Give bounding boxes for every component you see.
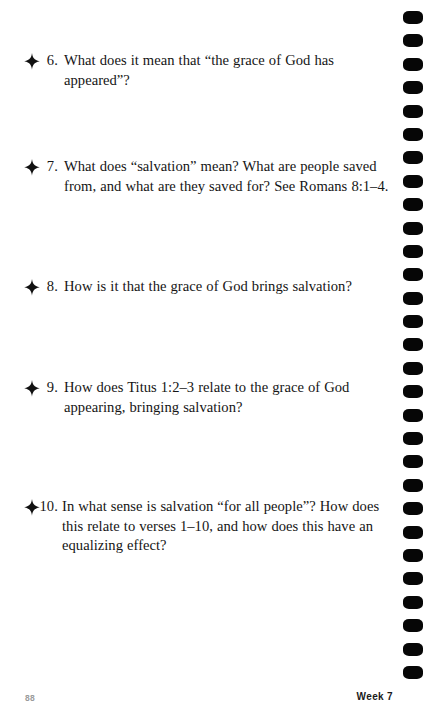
- section-label: Week 7: [357, 691, 393, 702]
- question-item: 7.What does “salvation” mean? What are p…: [24, 157, 394, 196]
- page-number: 88: [25, 693, 35, 703]
- four-pointed-star-icon: [24, 53, 40, 70]
- page-footer: 88 Week 7: [0, 681, 394, 721]
- binding-hole: [403, 385, 423, 398]
- binding-hole: [403, 175, 423, 188]
- question-text: How is it that the grace of God brings s…: [64, 277, 394, 297]
- question-text: In what sense is salvation “for all peop…: [62, 497, 394, 556]
- question-text: What does “salvation” mean? What are peo…: [64, 157, 394, 196]
- binding-hole: [403, 34, 423, 47]
- binding-hole: [403, 268, 423, 281]
- question-item: 9.How does Titus 1:2–3 relate to the gra…: [24, 378, 394, 417]
- question-number: 6.: [41, 51, 58, 71]
- binding-hole: [403, 338, 423, 351]
- binding-hole: [403, 245, 423, 258]
- four-pointed-star-icon: [24, 279, 40, 296]
- question-text: What does it mean that “the grace of God…: [64, 51, 394, 90]
- binding-hole: [403, 81, 423, 94]
- binding-hole: [403, 151, 423, 164]
- binding-hole: [403, 619, 423, 632]
- question-item: 6.What does it mean that “the grace of G…: [24, 51, 394, 90]
- question-text: How does Titus 1:2–3 relate to the grace…: [64, 378, 394, 417]
- binding-hole: [403, 409, 423, 422]
- binding-hole: [403, 596, 423, 609]
- binding-hole: [403, 432, 423, 445]
- four-pointed-star-icon: [24, 380, 40, 397]
- binding-hole: [403, 11, 423, 24]
- binding-hole: [403, 198, 423, 211]
- binding-hole: [403, 362, 423, 375]
- binding-hole: [403, 58, 423, 71]
- question-number: 10.: [37, 497, 58, 517]
- binding-hole: [403, 128, 423, 141]
- binding-hole: [403, 455, 423, 468]
- binding-hole: [403, 292, 423, 305]
- binding-hole: [403, 222, 423, 235]
- question-item: 8.How is it that the grace of God brings…: [24, 277, 394, 297]
- binding-hole: [403, 549, 423, 562]
- question-number: 8.: [41, 277, 58, 297]
- spiral-binding: [394, 0, 432, 721]
- four-pointed-star-icon: [24, 159, 40, 176]
- question-number: 7.: [41, 157, 58, 177]
- question-list: 6.What does it mean that “the grace of G…: [0, 0, 394, 721]
- binding-hole: [403, 526, 423, 539]
- question-item: 10.In what sense is salvation “for all p…: [24, 497, 394, 556]
- binding-hole: [403, 315, 423, 328]
- binding-hole: [403, 666, 423, 679]
- workbook-page: 6.What does it mean that “the grace of G…: [0, 0, 432, 721]
- question-number: 9.: [41, 378, 58, 398]
- binding-hole: [403, 105, 423, 118]
- binding-hole: [403, 643, 423, 656]
- binding-hole: [403, 479, 423, 492]
- binding-hole: [403, 502, 423, 515]
- binding-hole: [403, 572, 423, 585]
